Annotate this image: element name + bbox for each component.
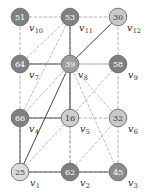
vertex-label-base: v [30,177,35,188]
vertex-label-base: v [128,69,133,80]
node-value-v11: 53 [65,13,75,22]
vertex-label-subscript: 1 [36,182,40,190]
vertex-label-subscript: 11 [85,27,93,35]
vertex-label-subscript: 5 [86,128,90,136]
vertex-label-base: v [78,69,83,80]
vertex-label-base: v [128,123,133,134]
vertex-label-v2: v2 [80,178,90,188]
vertex-label-subscript: 3 [134,182,138,190]
vertex-label-v5: v5 [80,124,90,134]
tree-edge-group [20,23,112,172]
node-value-v3: 45 [113,168,123,177]
vertex-label-subscript: 10 [35,27,43,35]
node-value-v9: 58 [113,60,123,69]
vertex-label-subscript: 6 [134,128,138,136]
vertex-label-subscript: 12 [133,27,141,35]
vertex-label-subscript: 4 [35,128,39,136]
vertex-label-v3: v3 [128,178,138,188]
vertex-label-subscript: 7 [35,74,39,82]
node-value-v1: 25 [15,168,25,177]
vertex-label-base: v [79,22,84,33]
vertex-label-v10: v10 [29,23,43,33]
vertex-label-v9: v9 [128,70,138,80]
node-group: 256245661632643958515330 [11,8,127,181]
vertex-label-v8: v8 [78,70,88,80]
node-value-v10: 51 [15,13,25,22]
vertex-label-subscript: 9 [134,74,138,82]
node-value-v8: 39 [65,60,75,69]
vertex-label-v6: v6 [128,124,138,134]
vertex-label-base: v [80,177,85,188]
vertex-label-base: v [29,69,34,80]
node-value-v7: 64 [15,60,25,69]
vertex-label-subscript: 2 [86,182,90,190]
vertex-label-base: v [29,123,34,134]
vertex-label-base: v [127,22,132,33]
graph-figure: 256245661632643958515330 v1v2v3v4v5v6v7v… [0,0,150,193]
node-value-v2: 62 [65,168,75,177]
vertex-label-v7: v7 [29,70,39,80]
grid-edge-group [20,17,118,172]
vertex-label-v4: v4 [29,124,39,134]
vertex-label-base: v [29,22,34,33]
vertex-label-v1: v1 [30,178,40,188]
vertex-label-subscript: 8 [84,74,88,82]
vertex-label-v11: v11 [79,23,93,33]
diagonal-edge [24,25,66,110]
diagonal-edge-group [24,23,114,165]
node-value-v12: 30 [113,13,123,22]
node-value-v4: 66 [15,114,25,123]
node-value-v5: 16 [65,114,75,123]
vertex-label-v12: v12 [127,23,141,33]
vertex-label-base: v [128,177,133,188]
vertex-label-base: v [80,123,85,134]
node-value-v6: 32 [113,114,123,123]
